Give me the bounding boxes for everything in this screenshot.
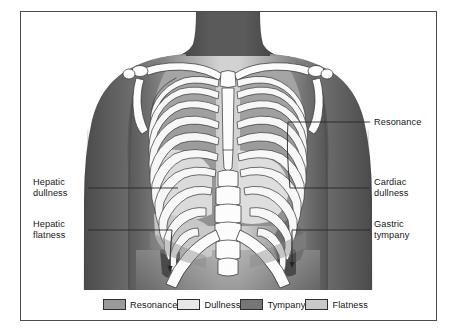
legend-item-tympany: Tympany [240, 299, 305, 310]
label-hepatic-dullness: Hepatic dullness [33, 177, 68, 200]
label-resonance: Resonance [374, 117, 421, 128]
legend: Resonance Dullness Tympany Flatness [103, 297, 365, 312]
legend-swatch-flatness [305, 299, 328, 310]
chest-percussion-figure: Resonance Cardiac dullness Gastric tympa… [0, 0, 457, 333]
legend-label-dullness: Dullness [204, 300, 240, 310]
label-gastric-tympany: Gastric tympany [374, 219, 409, 242]
legend-label-tympany: Tympany [267, 300, 305, 310]
legend-label-resonance: Resonance [130, 300, 177, 310]
figure-frame [20, 11, 437, 321]
legend-item-dullness: Dullness [177, 299, 240, 310]
label-cardiac-dullness: Cardiac dullness [374, 177, 409, 200]
legend-swatch-resonance [103, 299, 126, 310]
legend-swatch-tympany [240, 299, 263, 310]
legend-item-resonance: Resonance [103, 299, 177, 310]
label-hepatic-flatness: Hepatic flatness [33, 219, 65, 242]
legend-item-flatness: Flatness [305, 299, 368, 310]
legend-label-flatness: Flatness [332, 300, 368, 310]
legend-swatch-dullness [177, 299, 200, 310]
